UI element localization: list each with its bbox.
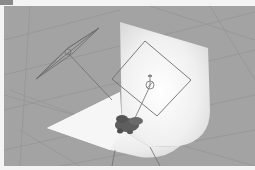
- 3d-viewport[interactable]: [4, 6, 255, 166]
- window-frame: [0, 0, 255, 170]
- window-tab[interactable]: [0, 0, 13, 5]
